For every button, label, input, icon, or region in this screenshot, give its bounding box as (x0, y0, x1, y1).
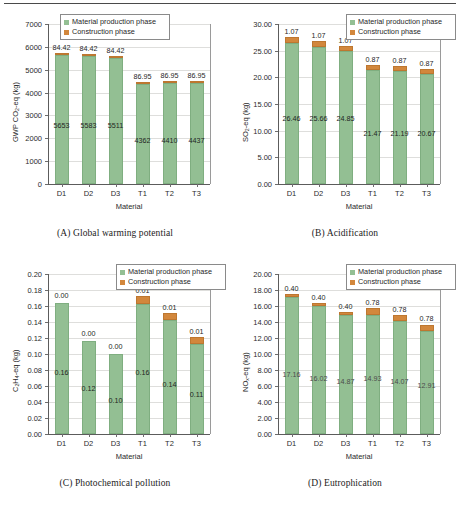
x-axis-tickmark (427, 184, 428, 187)
bar-segment-material-production[interactable] (339, 315, 353, 434)
bar-group[interactable] (163, 274, 177, 434)
bar-segment-construction[interactable] (55, 53, 69, 55)
bar-segment-construction[interactable] (109, 56, 123, 58)
bar-segment-construction[interactable] (393, 315, 407, 321)
bar-segment-material-production[interactable] (55, 55, 69, 184)
gridline (278, 131, 440, 132)
bar-segment-material-production[interactable] (136, 84, 150, 184)
bar-group[interactable] (420, 274, 434, 434)
bar-segment-construction[interactable] (190, 81, 204, 83)
bar-segment-construction[interactable] (393, 66, 407, 71)
bar-group[interactable] (393, 24, 407, 184)
bar-segment-material-production[interactable] (190, 83, 204, 184)
bar-label-material-production: 0.11 (190, 390, 203, 399)
bar-segment-material-production[interactable] (312, 306, 326, 434)
bar-segment-construction[interactable] (163, 313, 177, 319)
bar-group[interactable] (163, 24, 177, 184)
bar-segment-construction[interactable] (136, 296, 150, 303)
bar-segment-construction[interactable] (366, 308, 380, 314)
legend-item-construction[interactable]: Construction phase (350, 277, 451, 287)
x-axis-tick-label: D1 (277, 439, 307, 448)
bar-segment-construction[interactable] (190, 337, 204, 343)
legend-swatch-material-icon (64, 20, 69, 25)
legend-label: Construction phase (128, 277, 191, 287)
bar-label-construction: 84.42 (53, 43, 71, 52)
bar-segment-construction[interactable] (312, 303, 326, 306)
y-axis-title: C2H4-eq (kg) (11, 349, 20, 392)
bar-group[interactable] (366, 24, 380, 184)
y-axis-title: SO2-eq (kg) (241, 102, 250, 142)
bar-group[interactable] (339, 24, 353, 184)
plot-right-border (210, 274, 211, 434)
y-axis-tick-label: 25.00 (230, 46, 272, 55)
gridline (48, 402, 210, 403)
bar-group[interactable] (393, 274, 407, 434)
bar-group[interactable] (190, 24, 204, 184)
legend-label: Construction phase (72, 27, 135, 37)
y-axis-tick-label: 5.00 (230, 153, 272, 162)
bar-segment-material-production[interactable] (393, 71, 407, 184)
bar-segment-construction[interactable] (366, 65, 380, 70)
bar-segment-material-production[interactable] (285, 297, 299, 434)
bar-label-construction: 0.40 (339, 302, 353, 311)
bar-group[interactable] (136, 24, 150, 184)
bar-segment-construction[interactable] (163, 81, 177, 83)
bar-label-material-production: 4362 (135, 136, 151, 145)
legend-item-material-production[interactable]: Material production phase (64, 17, 165, 27)
bar-label-material-production: 4410 (162, 136, 178, 145)
y-axis-line (48, 274, 49, 434)
bar-group[interactable] (312, 24, 326, 184)
bar-label-material-production: 20.67 (418, 129, 436, 138)
bar-label-construction: 84.42 (80, 44, 98, 53)
legend-swatch-material-icon (120, 270, 125, 275)
legend-item-construction[interactable]: Construction phase (120, 277, 221, 287)
x-axis-title: Material (48, 202, 210, 211)
legend-item-material-production[interactable]: Material production phase (350, 17, 451, 27)
bar-segment-material-production[interactable] (366, 70, 380, 185)
gridline (278, 51, 440, 52)
x-axis-tick-label: T1 (128, 439, 158, 448)
bar-group[interactable] (285, 274, 299, 434)
bar-segment-material-production[interactable] (190, 344, 204, 434)
x-axis-tickmark (143, 184, 144, 187)
y-axis-tick-label: 5000 (0, 65, 42, 74)
legend-item-construction[interactable]: Construction phase (350, 27, 451, 37)
bar-group[interactable] (339, 274, 353, 434)
bar-segment-construction[interactable] (285, 37, 299, 43)
bar-segment-construction[interactable] (136, 82, 150, 84)
y-axis-line (48, 24, 49, 184)
gridline (278, 354, 440, 355)
bar-segment-material-production[interactable] (163, 320, 177, 434)
bar-segment-material-production[interactable] (109, 354, 123, 434)
bar-group[interactable] (190, 274, 204, 434)
y-axis-tick-label: 4.00 (230, 398, 272, 407)
legend-swatch-construction-icon (350, 30, 355, 35)
bar-segment-construction[interactable] (312, 41, 326, 47)
legend-item-material-production[interactable]: Material production phase (350, 267, 451, 277)
legend-item-material-production[interactable]: Material production phase (120, 267, 221, 277)
bar-group[interactable] (136, 274, 150, 434)
bar-group[interactable] (285, 24, 299, 184)
bar-segment-construction[interactable] (285, 294, 299, 297)
bar-group[interactable] (82, 274, 96, 434)
legend-item-construction[interactable]: Construction phase (64, 27, 165, 37)
bar-segment-material-production[interactable] (163, 83, 177, 184)
x-axis-tickmark (319, 184, 320, 187)
bar-label-construction: 0.01 (163, 303, 177, 312)
bar-group[interactable] (420, 24, 434, 184)
y-axis-tick-label: 7000 (0, 20, 42, 29)
y-axis-title: GWP CO2-eq (kg) (11, 82, 20, 142)
x-axis-tick-label: T2 (385, 189, 415, 198)
gridline (48, 70, 210, 71)
bar-segment-construction[interactable] (420, 325, 434, 331)
x-axis-tickmark (89, 434, 90, 437)
bar-segment-construction[interactable] (339, 46, 353, 52)
y-axis-tick-label: 3000 (0, 111, 42, 120)
gridline (278, 104, 440, 105)
bar-segment-construction[interactable] (339, 312, 353, 315)
gridline (48, 338, 210, 339)
bar-group[interactable] (109, 274, 123, 434)
y-axis-tick-label: 0.00 (0, 430, 42, 439)
bar-segment-construction[interactable] (82, 54, 96, 56)
bar-segment-construction[interactable] (420, 69, 434, 74)
